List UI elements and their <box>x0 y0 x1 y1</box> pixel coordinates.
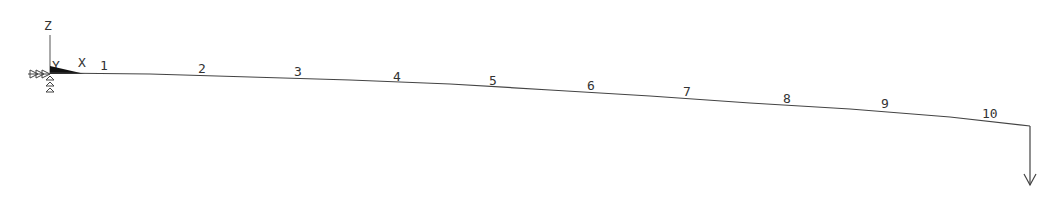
beam-diagram: Z Y X 1 2 3 4 5 6 7 8 9 10 <box>0 0 1053 200</box>
node-label: 6 <box>587 78 595 93</box>
node-label: 10 <box>982 106 998 121</box>
node-label: 2 <box>198 61 206 76</box>
point-load-arrow-icon <box>1024 126 1036 185</box>
axis-label-x: X <box>78 55 86 70</box>
axis-label-z: Z <box>44 18 52 33</box>
coordinate-axes: Z Y X <box>44 18 86 74</box>
node-label: 1 <box>100 58 108 73</box>
node-label: 8 <box>783 91 791 106</box>
node-label: 5 <box>489 73 497 88</box>
node-label: 9 <box>881 96 889 111</box>
node-label: 4 <box>393 69 401 84</box>
node-label: 7 <box>683 84 691 99</box>
node-label: 3 <box>294 64 302 79</box>
